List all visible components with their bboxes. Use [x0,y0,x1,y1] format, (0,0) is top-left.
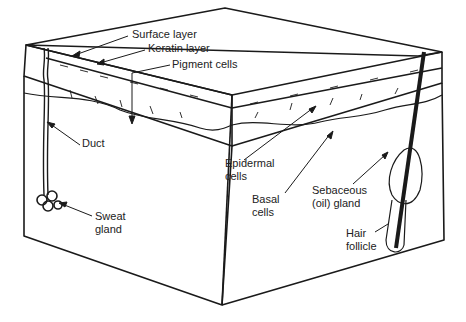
label-epidermal-cells-line1: Epidermal [225,157,275,170]
skin-diagram: Surface layer Keratin layer Pigment cell… [0,0,466,322]
label-hair-follicle-line2: follicle [346,240,377,253]
label-hair-follicle-line1: Hair [346,227,366,240]
label-surface-layer: Surface layer [132,28,197,41]
label-duct: Duct [82,137,105,150]
label-keratin-layer: Keratin layer [148,42,210,55]
label-basal-cells-line1: Basal [252,193,280,206]
label-basal-cells-line2: cells [252,206,274,219]
label-sebaceous-line1: Sebaceous [312,184,367,197]
label-epidermal-cells-line2: cells [225,170,247,183]
label-sweat-gland-line1: Sweat [95,210,126,223]
label-sweat-gland-line2: gland [95,223,122,236]
label-pigment-cells: Pigment cells [172,58,237,71]
label-sebaceous-line2: (oil) gland [312,197,360,210]
